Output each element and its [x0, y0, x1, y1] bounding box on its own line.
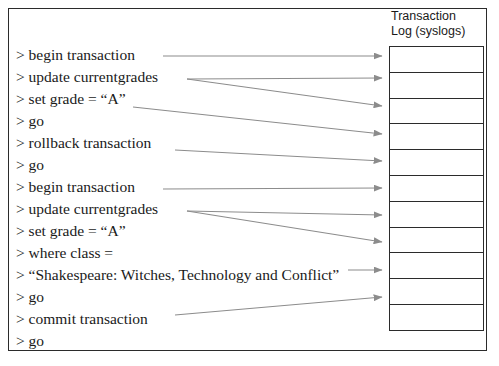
command-line: > where class = — [16, 242, 376, 264]
command-line: > set grade = “A” — [16, 220, 376, 242]
log-entry-box — [389, 252, 484, 279]
transaction-log-header-line1: Transaction — [391, 9, 495, 24]
log-entry-box — [389, 72, 484, 99]
sql-command-list: > begin transaction > update currentgrad… — [16, 44, 376, 352]
command-line: > begin transaction — [16, 176, 376, 198]
log-entry-box — [389, 98, 484, 125]
log-entry-box — [389, 175, 484, 202]
log-entry-box — [389, 123, 484, 150]
command-line: > go — [16, 330, 376, 352]
transaction-log-box-stack — [389, 46, 484, 331]
log-entry-box — [389, 278, 484, 305]
log-entry-box — [389, 227, 484, 254]
log-entry-box — [389, 149, 484, 176]
log-entry-box — [389, 201, 484, 228]
command-line: > update currentgrades — [16, 198, 376, 220]
command-line: > go — [16, 110, 376, 132]
command-line: > set grade = “A” — [16, 88, 376, 110]
diagram-canvas: > begin transaction > update currentgrad… — [0, 0, 499, 366]
command-line: > go — [16, 286, 376, 308]
log-entry-box — [389, 304, 484, 331]
command-line: > begin transaction — [16, 44, 376, 66]
transaction-log-header: Transaction Log (syslogs) — [391, 9, 495, 39]
transaction-log-header-line2: Log (syslogs) — [391, 24, 495, 39]
command-line: > go — [16, 154, 376, 176]
command-line: > commit transaction — [16, 308, 376, 330]
command-line: > update currentgrades — [16, 66, 376, 88]
command-line: > rollback transaction — [16, 132, 376, 154]
command-line: > “Shakespeare: Witches, Technology and … — [16, 264, 376, 286]
log-entry-box — [389, 46, 484, 73]
